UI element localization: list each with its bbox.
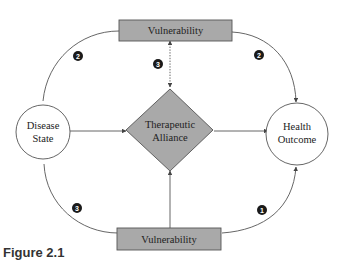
disease-state-node: Disease State — [16, 105, 70, 159]
badge-top-left-number: 2 — [76, 53, 80, 60]
badge-bottom-left: 3 — [72, 203, 82, 213]
vulnerability-bottom-node: Vulnerability — [117, 228, 221, 250]
edge-top-vulnerability-to-health — [232, 32, 296, 102]
edge-bottom-vulnerability-to-health — [222, 167, 296, 233]
edge-disease-to-top-vulnerability — [43, 31, 119, 101]
vulnerability-top-node: Vulnerability — [119, 20, 232, 41]
disease-state-label-line1: Disease — [27, 120, 60, 131]
badge-top-right: 2 — [254, 50, 264, 60]
badge-center-dotted: 3 — [153, 59, 163, 69]
badge-top-right-number: 2 — [257, 52, 261, 59]
therapeutic-alliance-node: Therapeutic Alliance — [126, 89, 213, 171]
badge-bottom-left-number: 3 — [75, 205, 79, 212]
disease-state-label-line2: State — [33, 133, 54, 144]
vulnerability-top-label: Vulnerability — [148, 25, 204, 36]
badge-top-left: 2 — [73, 51, 83, 61]
vulnerability-bottom-label: Vulnerability — [141, 234, 197, 245]
edge-disease-to-bottom-vulnerability — [44, 164, 118, 233]
badge-center-dotted-number: 3 — [156, 61, 160, 68]
figure-caption: Figure 2.1 — [3, 246, 64, 259]
badge-bottom-right-number: 1 — [260, 207, 264, 214]
therapeutic-alliance-label-line1: Therapeutic — [145, 119, 195, 130]
badge-bottom-right: 1 — [257, 205, 267, 215]
health-outcome-label-line2: Outcome — [278, 134, 317, 145]
therapeutic-alliance-label-line2: Alliance — [152, 132, 188, 143]
health-outcome-label-line1: Health — [283, 121, 312, 132]
health-outcome-node: Health Outcome — [266, 103, 328, 165]
